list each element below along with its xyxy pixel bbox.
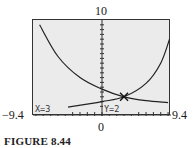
figure-caption: FIGURE 8.44 <box>4 135 71 147</box>
origin-label: 0 <box>98 121 104 133</box>
x-max-label: 9.4 <box>172 109 187 121</box>
y-max-label: 10 <box>95 5 107 17</box>
calculator-screen: X=3 Y=2 <box>32 19 170 115</box>
intersection-marker-icon <box>120 93 128 101</box>
increasing-curve <box>40 39 170 111</box>
x-min-label: −9.4 <box>2 109 24 121</box>
graph-plot: X=3 Y=2 <box>33 20 171 116</box>
y-readout: Y=2 <box>104 104 119 114</box>
x-readout: X=3 <box>35 104 50 114</box>
